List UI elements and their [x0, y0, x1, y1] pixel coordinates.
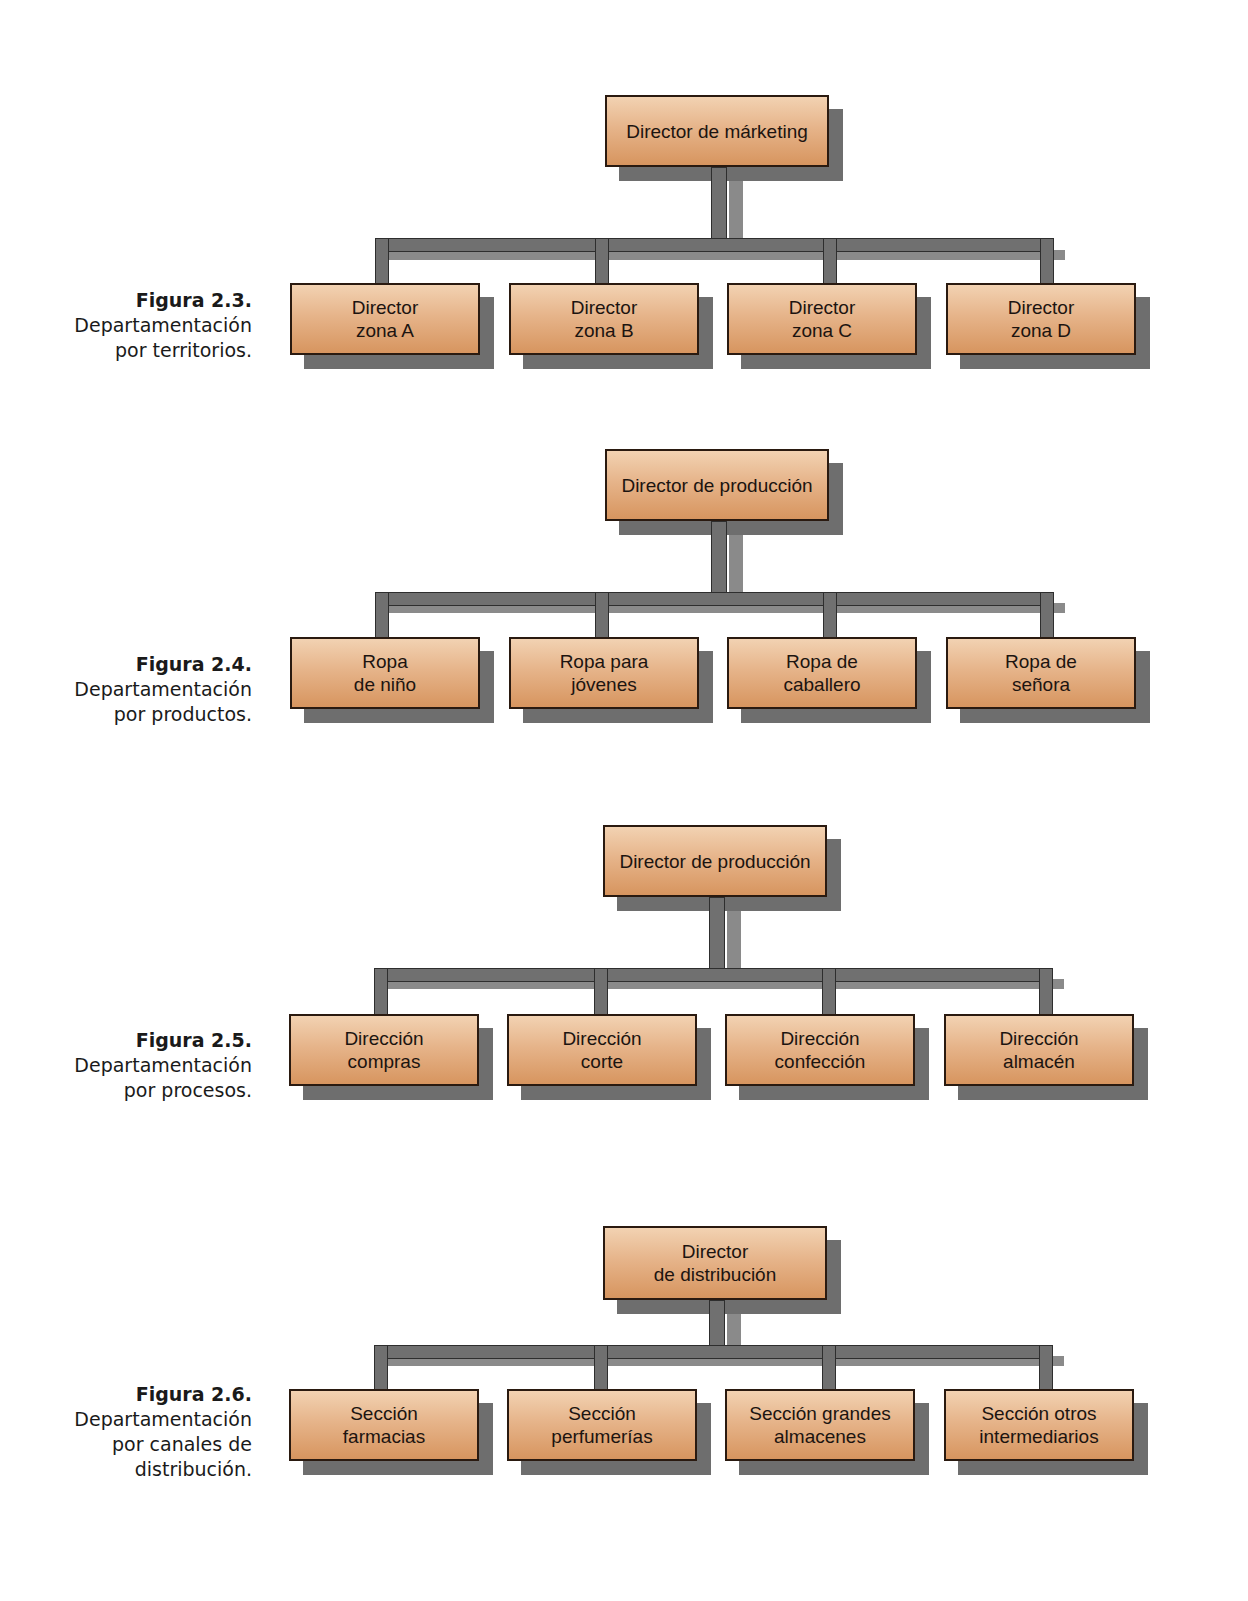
child-node: Sección otros intermediarios	[944, 1389, 1134, 1461]
drop-connector	[1039, 968, 1053, 1016]
drop-connector	[823, 592, 837, 639]
figure-description: Departamentación por canales de distribu…	[12, 1407, 252, 1482]
root-node: Director de producción	[605, 449, 829, 521]
org-chart-distribution-channels: Figura 2.6. Departamentación por canales…	[0, 0, 1248, 1500]
drop-connector	[375, 238, 389, 285]
child-node: Director zona D	[946, 283, 1136, 355]
drop-connector	[595, 238, 609, 285]
child-node: Dirección corte	[507, 1014, 697, 1086]
horizontal-bus	[375, 238, 1052, 252]
drop-connector	[374, 968, 388, 1016]
drop-connector	[1040, 238, 1054, 285]
vertical-connector	[711, 167, 727, 247]
child-node: Sección perfumerías	[507, 1389, 697, 1461]
child-node: Director zona B	[509, 283, 699, 355]
child-node: Dirección compras	[289, 1014, 479, 1086]
vertical-connector	[711, 521, 727, 601]
child-node: Dirección confección	[725, 1014, 915, 1086]
vertical-connector	[709, 897, 725, 977]
drop-connector	[594, 968, 608, 1016]
child-node: Director zona A	[290, 283, 480, 355]
horizontal-bus	[374, 968, 1051, 982]
horizontal-bus	[375, 592, 1052, 606]
child-node: Ropa para jóvenes	[509, 637, 699, 709]
drop-connector	[822, 968, 836, 1016]
drop-connector	[822, 1345, 836, 1391]
child-node: Ropa de niño	[290, 637, 480, 709]
drop-connector	[594, 1345, 608, 1391]
child-node: Sección grandes almacenes	[725, 1389, 915, 1461]
drop-connector	[375, 592, 389, 639]
drop-connector	[823, 238, 837, 285]
drop-connector	[1040, 592, 1054, 639]
child-node: Director zona C	[727, 283, 917, 355]
figure-caption: Figura 2.6. Departamentación por canales…	[12, 1382, 252, 1482]
vertical-connector	[709, 1300, 725, 1348]
child-node: Ropa de señora	[946, 637, 1136, 709]
child-node: Sección farmacias	[289, 1389, 479, 1461]
root-node: Director de márketing	[605, 95, 829, 167]
root-node: Director de distribución	[603, 1226, 827, 1300]
drop-connector	[595, 592, 609, 639]
drop-connector	[1039, 1345, 1053, 1391]
root-node: Director de producción	[603, 825, 827, 897]
figure-number: Figura 2.6.	[12, 1382, 252, 1407]
horizontal-bus	[374, 1345, 1051, 1359]
child-node: Ropa de caballero	[727, 637, 917, 709]
drop-connector	[374, 1345, 388, 1391]
child-node: Dirección almacén	[944, 1014, 1134, 1086]
